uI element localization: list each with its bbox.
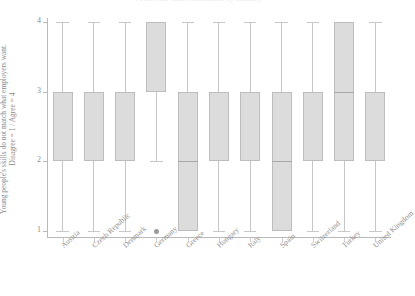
whisker-cap-upper [213, 22, 225, 23]
boxplot-germany[interactable] [141, 18, 172, 238]
whisker-cap-upper [119, 22, 131, 23]
whisker-cap-upper [56, 22, 68, 23]
y-axis-label-scale-note: Disagree = 1 / Agree = 4 [8, 18, 17, 240]
boxplot-czech-republic[interactable] [78, 18, 109, 238]
whisker-cap-lower [56, 231, 68, 232]
whisker-cap-lower [88, 231, 100, 232]
whisker-upper [281, 22, 282, 92]
y-axis-tick-label: 1 [29, 226, 41, 234]
whisker-cap-lower [150, 161, 162, 162]
boxplot-united-kingdom[interactable] [360, 18, 391, 238]
whisker-lower [218, 161, 219, 231]
y-axis-tick-label: 2 [29, 156, 41, 164]
box[interactable] [146, 22, 166, 92]
boxplot-austria[interactable] [47, 18, 78, 238]
whisker-lower [250, 161, 251, 231]
outlier-point[interactable] [154, 229, 159, 234]
whisker-upper [187, 22, 188, 92]
whisker-cap-upper [88, 22, 100, 23]
y-axis-label-group: Young people's skills do not match what … [0, 18, 24, 240]
whisker-cap-lower [369, 231, 381, 232]
median-line [178, 161, 198, 162]
whisker-upper [218, 22, 219, 92]
whisker-upper [62, 22, 63, 92]
box[interactable] [209, 92, 229, 162]
whisker-upper [250, 22, 251, 92]
median-line [272, 161, 292, 162]
whisker-cap-upper [275, 22, 287, 23]
whisker-upper [312, 22, 313, 92]
whisker-cap-lower [119, 231, 131, 232]
whisker-lower [93, 161, 94, 231]
box[interactable] [240, 92, 260, 162]
whisker-lower [156, 92, 157, 162]
boxplot-spain[interactable] [266, 18, 297, 238]
y-axis-label: Young people's skills do not match what … [0, 18, 8, 240]
whisker-lower [62, 161, 63, 231]
box[interactable] [303, 92, 323, 162]
box[interactable] [53, 92, 73, 162]
whisker-upper [375, 22, 376, 92]
box[interactable] [365, 92, 385, 162]
whisker-cap-lower [244, 231, 256, 232]
boxplot-turkey[interactable] [328, 18, 359, 238]
whisker-cap-lower [213, 231, 225, 232]
y-axis-tick-label: 4 [29, 17, 41, 25]
boxplot-hungary[interactable] [203, 18, 234, 238]
whisker-lower [344, 161, 345, 231]
whisker-lower [375, 161, 376, 231]
whisker-cap-lower [338, 231, 350, 232]
whisker-cap-upper [369, 22, 381, 23]
boxplot-switzerland[interactable] [297, 18, 328, 238]
whisker-cap-upper [182, 22, 194, 23]
y-axis-tick-label: 3 [29, 87, 41, 95]
boxplot-italy[interactable] [235, 18, 266, 238]
boxplot-greece[interactable] [172, 18, 203, 238]
plot-area: 1234 [47, 18, 391, 238]
box[interactable] [115, 92, 135, 162]
whisker-lower [312, 161, 313, 231]
whisker-cap-lower [307, 231, 319, 232]
whisker-upper [125, 22, 126, 92]
whisker-upper [93, 22, 94, 92]
boxplot-denmark[interactable] [110, 18, 141, 238]
whisker-cap-upper [307, 22, 319, 23]
median-line [334, 92, 354, 93]
page-title: Perceived skills mismatch by country [0, 0, 397, 3]
box[interactable] [84, 92, 104, 162]
whisker-cap-upper [244, 22, 256, 23]
